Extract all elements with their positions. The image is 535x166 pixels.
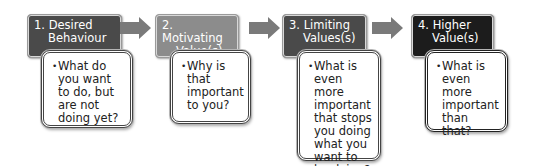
step-4-number: 4.	[418, 18, 429, 32]
step-1-question-card: • What do you want to do, but are not do…	[41, 50, 133, 128]
step-1-number: 1.	[34, 18, 45, 32]
step-2-title-line1: Motivating	[162, 31, 223, 45]
step-4-title-line2: Value(s)	[418, 32, 487, 45]
bullet-icon: •	[436, 60, 441, 73]
step-3-title-line1: Limiting	[304, 18, 350, 32]
step-4-question: What is even more important than that?	[436, 60, 501, 138]
arrow-right-icon	[249, 17, 281, 39]
step-3-question: What is even more important that stops y…	[308, 60, 374, 166]
step-1-title-line1: Desired	[49, 18, 93, 32]
step-2-number: 2.	[162, 18, 173, 32]
step-3-number: 3.	[289, 18, 300, 32]
arrow-right-icon	[372, 17, 404, 39]
step-1-question: What do you want to do, but are not doin…	[52, 60, 126, 125]
bullet-icon: •	[181, 60, 186, 73]
step-1-title-line2: Behaviour	[34, 32, 115, 45]
bullet-icon: •	[308, 60, 313, 73]
step-2-question: Why is that important to you?	[181, 60, 244, 112]
step-2-question-card: • Why is that important to you?	[170, 50, 251, 124]
step-3-title-line2: Values(s)	[289, 32, 360, 45]
bullet-icon: •	[52, 60, 57, 73]
step-4-title-line1: Higher	[433, 18, 471, 32]
arrow-right-icon	[120, 17, 152, 39]
step-3-question-card: • What is even more important that stops…	[297, 50, 381, 161]
step-4-question-card: • What is even more important than that?	[425, 50, 508, 132]
